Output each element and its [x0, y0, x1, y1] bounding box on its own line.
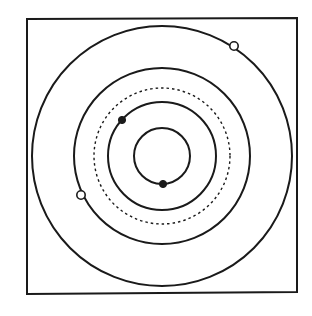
- orbit-markers: [77, 42, 238, 199]
- ring-second: [74, 68, 250, 244]
- frame-border: [27, 18, 297, 294]
- orbit-rings: [32, 26, 292, 286]
- filled-dot-marker-inner: [159, 180, 166, 187]
- ring-inner: [134, 128, 190, 184]
- concentric-orbit-diagram: [0, 0, 312, 316]
- open-circle-marker-second: [77, 191, 85, 199]
- filled-dot-marker-third: [118, 116, 125, 123]
- diagram-canvas: [0, 0, 312, 316]
- open-circle-marker-outer: [230, 42, 238, 50]
- ring-dashed-dashed: [94, 88, 230, 224]
- ring-outer: [32, 26, 292, 286]
